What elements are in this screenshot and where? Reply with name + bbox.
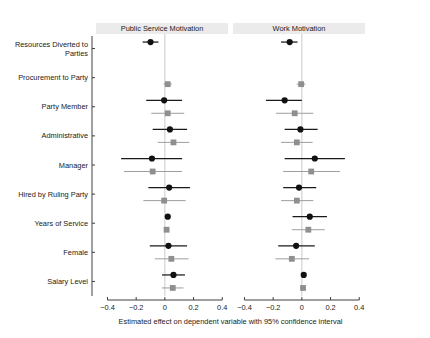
y-axis-label-administrative: Administrative [42,131,88,140]
x-axis-title: Estimated effect on dependent variable w… [119,317,343,326]
x-axis-panel-2: −0.4−0.200.20.4 [237,297,364,312]
coefficient-plot: Public Service MotivationWork Motivation… [0,0,430,338]
y-axis: Resources Diverted toPartiesProcurement … [15,36,95,296]
series-b [124,81,189,291]
y-axis-label-resources-diverted-to-parties: Parties [65,49,88,58]
estimate-point-square [168,256,174,262]
y-axis-label-procurement-to-party: Procurement to Party [18,73,88,82]
x-axis-tick-label: 0.2 [188,303,198,312]
estimate-point-square [294,139,300,145]
y-axis-label-party-member: Party Member [42,102,89,111]
estimate-point-square [308,169,314,175]
estimate-point-circle [293,243,299,249]
estimate-point-circle [170,272,176,278]
estimate-point-circle [147,39,153,45]
estimate-point-circle [166,185,172,191]
estimate-point-circle [287,39,293,45]
estimate-point-square [300,285,306,291]
x-axis-tick-label: 0.4 [217,303,227,312]
estimate-point-square [171,139,177,145]
series-a [266,39,345,278]
series-b [275,81,340,291]
estimate-point-circle [301,272,307,278]
x-axis-tick-label: −0.2 [129,303,144,312]
estimate-point-square [289,256,295,262]
y-axis-label-salary-level: Salary Level [47,277,88,286]
estimate-point-square [170,285,176,291]
panel-strip-label: Work Motivation [273,24,326,33]
x-axis-tick-label: −0.4 [237,303,252,312]
estimate-point-circle [307,214,313,220]
estimate-point-circle [161,97,167,103]
y-axis-label-hired-by-ruling-party: Hired by Ruling Party [18,190,88,199]
y-axis-label-resources-diverted-to-parties: Resources Diverted to [15,40,88,49]
x-axis-tick-label: 0.2 [325,303,335,312]
y-axis-label-years-of-service: Years of Service [34,219,88,228]
x-axis-tick-label: 0.4 [354,303,364,312]
estimate-point-square [165,81,171,87]
estimate-point-circle [167,126,173,132]
estimate-point-square [298,81,304,87]
estimate-point-square [161,198,167,204]
estimate-point-circle [165,214,171,220]
estimate-point-circle [149,155,155,161]
estimate-point-square [292,110,298,116]
estimate-point-square [164,227,170,233]
x-axis-panel-1: −0.4−0.200.20.4 [100,297,227,312]
estimate-point-circle [165,243,171,249]
y-axis-label-female: Female [63,248,88,257]
panel-2: Work Motivation [233,23,365,296]
x-axis-tick-label: −0.4 [100,303,115,312]
estimate-point-square [305,227,311,233]
estimate-point-square [294,198,300,204]
panel-strip-label: Public Service Motivation [121,24,204,33]
estimate-point-circle [282,97,288,103]
x-axis-tick-label: 0 [300,303,304,312]
estimate-point-circle [297,126,303,132]
estimate-point-square [150,169,156,175]
panel-2-data [266,39,345,291]
panel-1: Public Service Motivation [96,23,228,296]
x-axis-tick-label: 0 [163,303,167,312]
chart-canvas: Public Service MotivationWork Motivation… [0,0,430,338]
estimate-point-circle [296,185,302,191]
x-axis-tick-label: −0.2 [266,303,281,312]
estimate-point-circle [312,155,318,161]
estimate-point-square [165,110,171,116]
y-axis-label-manager: Manager [59,161,89,170]
series-a [121,39,190,278]
panel-1-data [121,39,190,291]
